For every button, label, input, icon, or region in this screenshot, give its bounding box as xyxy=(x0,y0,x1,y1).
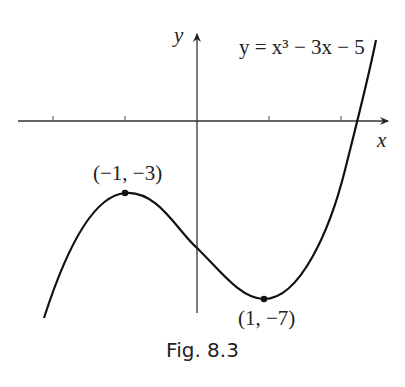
equation-label: y = x³ − 3x − 5 xyxy=(239,35,365,59)
local-max-label: (−1, −3) xyxy=(93,161,162,185)
figure-caption: Fig. 8.3 xyxy=(0,338,405,362)
x-axis-label: x xyxy=(376,128,387,152)
local-min-point xyxy=(261,296,268,303)
local-min-label: (1, −7) xyxy=(238,306,295,330)
y-axis-label: y xyxy=(172,23,184,47)
local-max-point xyxy=(122,190,129,197)
graph-canvas: y x y = x³ − 3x − 5 (−1, −3) (1, −7) xyxy=(0,0,405,387)
